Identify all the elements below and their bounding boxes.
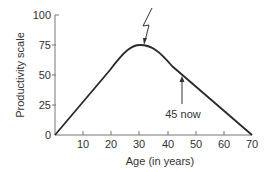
x-tick-label: 70 [246, 138, 258, 150]
y-tick-labels: 100 75 50 25 0 [33, 9, 51, 141]
productivity-chart: 100 75 50 25 0 10 20 30 40 50 60 70 Age … [0, 0, 270, 172]
y-tick-label: 100 [33, 9, 51, 21]
x-ticks [83, 131, 224, 135]
y-axis-title: Productivity scale [14, 32, 26, 118]
x-tick-label: 50 [190, 138, 202, 150]
arrow-up-icon [180, 76, 185, 104]
annotation-45-now: 45 now [165, 108, 201, 120]
lightning-bolt-icon [143, 8, 152, 45]
y-tick-label: 0 [45, 129, 51, 141]
productivity-curve [55, 45, 252, 135]
x-tick-label: 20 [105, 138, 117, 150]
x-tick-labels: 10 20 30 40 50 60 70 [77, 138, 258, 150]
x-axis-title: Age (in years) [126, 155, 194, 167]
y-tick-label: 25 [39, 99, 51, 111]
x-tick-label: 40 [162, 138, 174, 150]
x-tick-label: 10 [77, 138, 89, 150]
y-tick-label: 75 [39, 39, 51, 51]
x-tick-label: 30 [133, 138, 145, 150]
y-tick-label: 50 [39, 69, 51, 81]
x-tick-label: 60 [218, 138, 230, 150]
